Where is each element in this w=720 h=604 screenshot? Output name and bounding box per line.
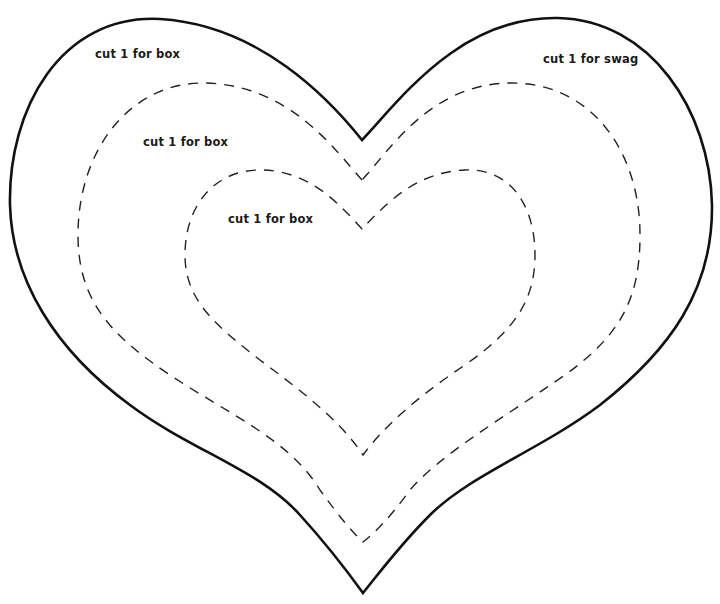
middle-heart-box-label: cut 1 for box — [143, 135, 228, 149]
heart-template-canvas — [0, 0, 720, 604]
outer-heart-box-label: cut 1 for box — [95, 47, 180, 61]
middle-heart-cutline — [78, 83, 640, 542]
outer-heart-outline — [10, 18, 712, 593]
inner-heart-box-label: cut 1 for box — [228, 212, 313, 226]
outer-heart-swag-label: cut 1 for swag — [543, 52, 638, 66]
